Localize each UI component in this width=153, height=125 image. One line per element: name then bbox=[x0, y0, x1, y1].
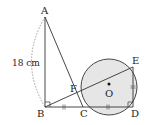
label-c: C bbox=[80, 108, 88, 119]
geometry-diagram: A B C D E F O 18 cm bbox=[0, 0, 153, 125]
label-d: D bbox=[131, 108, 139, 119]
label-b: B bbox=[37, 108, 44, 119]
label-a: A bbox=[40, 5, 49, 16]
center-point-o bbox=[108, 83, 111, 86]
label-ab-length: 18 cm bbox=[12, 58, 40, 68]
label-f: F bbox=[70, 83, 77, 94]
label-o: O bbox=[105, 88, 113, 99]
label-e: E bbox=[132, 55, 139, 66]
segment-ac bbox=[45, 17, 83, 107]
